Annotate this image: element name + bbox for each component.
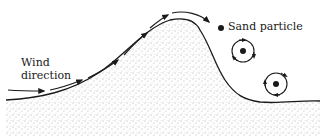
wind-label-line2: direction <box>21 69 71 82</box>
eddy-upper-icon <box>232 40 254 62</box>
wind-label-line1: Wind <box>21 56 71 69</box>
eddy-lower-icon <box>265 73 287 95</box>
sand-particle-label: Sand particle <box>228 20 303 33</box>
sand-particle-icon <box>218 25 224 31</box>
wind-direction-label: Wind direction <box>21 56 71 82</box>
